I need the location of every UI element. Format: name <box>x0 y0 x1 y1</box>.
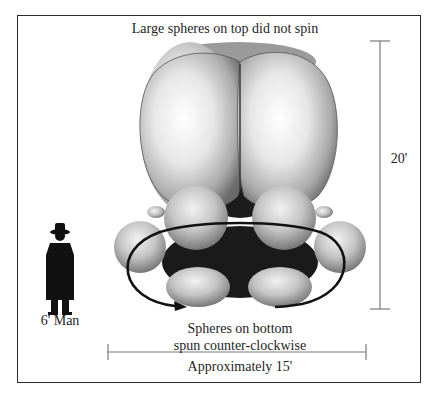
scale-figure-label: 6' Man <box>20 312 100 329</box>
side-nub-left <box>147 206 165 218</box>
width-dimension-label: Approximately 15' <box>140 358 340 375</box>
man-silhouette-icon <box>46 223 74 315</box>
bottom-caption: Spheres on bottom spun counter-clockwise <box>140 320 340 354</box>
top-spheres <box>140 42 338 218</box>
bottom-caption-line1: Spheres on bottom <box>140 320 340 337</box>
side-nub-right <box>315 206 333 218</box>
height-dimension-label: 20' <box>384 150 414 167</box>
bottom-caption-line2: spun counter-clockwise <box>140 337 340 354</box>
height-scale-bar <box>370 41 390 309</box>
